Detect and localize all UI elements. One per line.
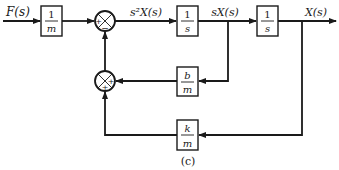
svg-text:1: 1 <box>184 9 190 20</box>
svg-text:k: k <box>184 123 190 134</box>
svg-text:+: + <box>102 83 109 92</box>
summing-junction-main: + − <box>95 11 115 33</box>
figure-caption: (c) <box>181 155 196 168</box>
block-integrator-1: 1 s <box>177 6 198 36</box>
svg-text:b: b <box>184 70 190 81</box>
svg-text:1: 1 <box>48 9 54 20</box>
accel-label: s²X(s) <box>130 6 162 19</box>
input-label: F(s) <box>5 5 30 19</box>
svg-text:1: 1 <box>264 9 270 20</box>
block-spring-gain: k m <box>177 120 198 150</box>
svg-text:s: s <box>185 23 190 34</box>
position-feedback-path <box>199 21 302 135</box>
svg-text:+: + <box>108 77 115 86</box>
svg-text:m: m <box>47 23 56 34</box>
spring-arrow <box>105 92 177 135</box>
velocity-feedback-path <box>199 21 228 81</box>
svg-text:s: s <box>265 23 270 34</box>
svg-text:m: m <box>183 138 192 149</box>
block-diagram: F(s) 1 m + − s²X(s) 1 s sX(s) 1 s X(s) <box>0 0 339 170</box>
block-damping-gain: b m <box>177 67 198 96</box>
block-integrator-2: 1 s <box>257 6 278 36</box>
svg-text:m: m <box>183 84 192 95</box>
summing-junction-feedback: + + <box>95 71 115 92</box>
svg-text:−: − <box>101 23 109 33</box>
output-label: X(s) <box>304 6 327 19</box>
block-gain-inv-m: 1 m <box>41 6 62 36</box>
vel-label: sX(s) <box>211 6 239 19</box>
